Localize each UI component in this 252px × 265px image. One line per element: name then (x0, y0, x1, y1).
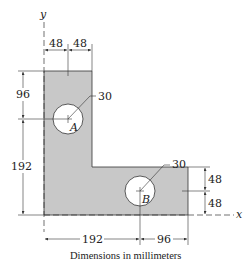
figure-caption: Dimensions in millimeters (70, 250, 181, 261)
dim-left-lower-height: 192 (11, 160, 32, 173)
dim-top-left-width: 48 (49, 37, 63, 50)
hole-b-label: B (141, 193, 150, 206)
x-axis-label: x (236, 208, 243, 221)
dim-top-right-width: 48 (73, 37, 87, 50)
l-shape-diagram: y x 48 48 96 192 192 96 48 48 30 30 A B … (0, 0, 252, 265)
dim-bottom-right-width: 96 (157, 233, 171, 246)
hole-a-radius-label: 30 (98, 90, 112, 103)
dim-right-lower-height: 48 (208, 197, 222, 210)
dim-right-upper-height: 48 (208, 173, 222, 186)
l-shaped-plate (44, 71, 188, 215)
dim-left-upper-height: 96 (16, 88, 30, 101)
dim-bottom-left-width: 192 (82, 233, 103, 246)
hole-a-label: A (69, 121, 78, 134)
y-axis-label: y (39, 8, 47, 21)
hole-b-radius-label: 30 (172, 158, 186, 171)
